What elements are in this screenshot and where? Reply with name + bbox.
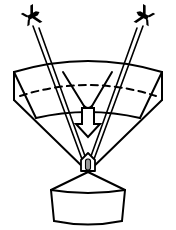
coverage-top-arc [14,61,162,72]
figure-root [0,0,176,230]
cone-generator-right-outer [88,100,162,172]
left-aircraft-tailplane [21,11,29,19]
right-aircraft-tailplane [147,11,155,19]
left-aircraft [19,3,44,29]
v-left-leg [63,72,84,106]
left-aircraft-tailplane-lower [25,19,33,27]
base-cylinder-bottom-rim [54,221,122,225]
cone-generator-left-outer [14,100,88,172]
radar-coverage-diagram [0,0,176,230]
beam-v-convergence [63,72,112,108]
right-aircraft [132,3,157,29]
right-beam-outer [90,26,143,170]
base-shoulder-left [51,172,88,190]
hidden-horizon-dashed-ellipse [20,85,156,96]
antenna-base-group [51,172,125,225]
base-cylinder-top-rim [51,190,125,193]
right-aircraft-tailplane-lower [143,19,151,27]
base-cylinder-left-wall [51,190,54,221]
beam-lines-group [33,26,143,170]
sensor-head-core [86,159,91,170]
base-cylinder-right-wall [122,190,125,221]
sensor-head-group [81,153,95,171]
base-shoulder-right [88,172,125,190]
v-right-leg [92,72,112,106]
